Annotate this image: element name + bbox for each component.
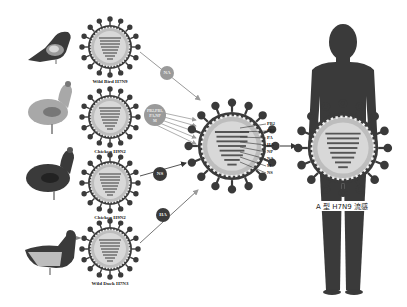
segment-ns: NS (267, 170, 273, 175)
hen-icon (26, 147, 74, 200)
virus-chicken-2 (80, 153, 140, 213)
label-chicken-1: Chicken H9N2 (94, 149, 126, 154)
segment-pb1: PB1 (267, 128, 275, 133)
result-caption: A 型 H7N9 流感 (315, 201, 369, 211)
virus-wild-bird (80, 17, 140, 77)
virus-wild-duck (80, 219, 140, 279)
chicken-icon (28, 81, 72, 134)
badge-ha: HA (156, 208, 170, 222)
label-wild-bird: Wild Bird H7N9 (92, 79, 127, 84)
segment-ha: HA (267, 142, 274, 147)
duck-icon (25, 230, 82, 275)
badge-na: NA (160, 66, 174, 80)
segment-na: NA (267, 156, 274, 161)
bird-icon (28, 32, 71, 64)
segment-np: NP (267, 149, 273, 154)
h7n9-virus (295, 100, 391, 196)
reassortant-virus (186, 100, 279, 193)
segment-pa: PA (267, 135, 273, 140)
diagram-svg (0, 0, 407, 307)
badge-ns: NS (153, 167, 167, 181)
segment-pb2: PB2 (267, 121, 275, 126)
label-wild-duck: Wild Duck H7N3 (92, 281, 129, 286)
label-chicken-2: Chicken H9N2 (94, 215, 126, 220)
virus-chicken-1 (80, 87, 140, 147)
badge-internal-genes: PB2,PB1, PA,NP M (144, 104, 166, 126)
segment-m: M (267, 163, 271, 168)
diagram-canvas: Wild Bird H7N9 Chicken H9N2 Chicken H9N2… (0, 0, 407, 307)
